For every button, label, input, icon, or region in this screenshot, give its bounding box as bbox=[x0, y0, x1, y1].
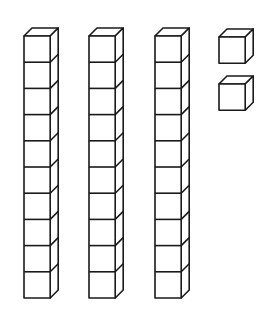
ten-rod-1 bbox=[24, 28, 58, 298]
ten-rod-2 bbox=[89, 28, 123, 298]
unit-cube-1 bbox=[219, 29, 253, 63]
front-face bbox=[219, 37, 245, 63]
base-ten-blocks-diagram bbox=[0, 0, 261, 310]
unit-cube-2 bbox=[219, 76, 253, 110]
blocks-canvas bbox=[0, 0, 261, 310]
front-face bbox=[219, 84, 245, 110]
ten-rod-3 bbox=[155, 28, 189, 298]
